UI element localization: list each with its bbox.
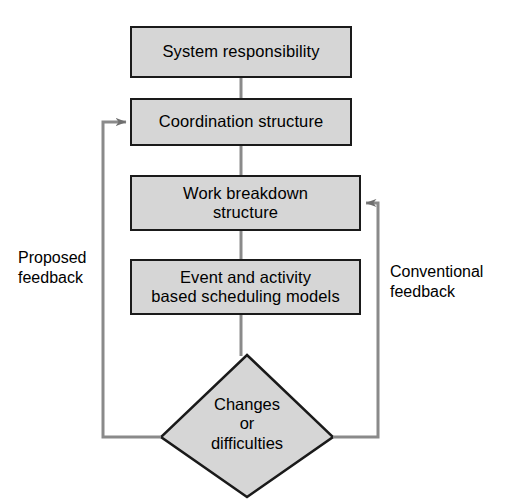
node-coordination-structure-label: Coordination structure	[153, 112, 330, 131]
edge-label-proposed-feedback: Proposed feedback	[18, 248, 102, 287]
node-system-responsibility-label: System responsibility	[156, 42, 325, 61]
node-scheduling-models-label: Event and activity based scheduling mode…	[145, 268, 346, 307]
node-system-responsibility[interactable]: System responsibility	[130, 26, 352, 78]
connector-conventional-feedback	[333, 203, 378, 437]
node-coordination-structure[interactable]: Coordination structure	[130, 98, 352, 146]
edge-label-conventional-feedback: Conventional feedback	[390, 262, 502, 301]
decision-diamond-changes-or-difficulties	[161, 355, 333, 497]
node-work-breakdown-structure-label: Work breakdown structure	[177, 184, 314, 223]
node-scheduling-models[interactable]: Event and activity based scheduling mode…	[130, 259, 361, 315]
node-work-breakdown-structure[interactable]: Work breakdown structure	[130, 175, 361, 231]
diagram-canvas: System responsibility Coordination struc…	[0, 0, 508, 502]
